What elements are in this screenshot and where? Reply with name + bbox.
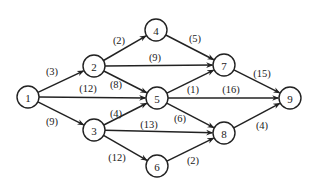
node-8: 8 — [213, 122, 235, 144]
node-3: 3 — [83, 119, 105, 141]
node-label: 6 — [154, 161, 160, 173]
edge-weight-2-7: (9) — [149, 52, 162, 64]
edge-2-7 — [105, 65, 213, 66]
node-label: 5 — [154, 93, 160, 105]
node-label: 8 — [221, 128, 227, 140]
edge-weight-8-9: (4) — [256, 120, 269, 132]
edge-weight-2-5: (8) — [110, 79, 123, 91]
edge-weight-3-6: (12) — [108, 152, 126, 164]
edge-weight-1-5: (12) — [79, 83, 97, 95]
edge-weight-2-4: (2) — [113, 35, 126, 47]
edge-3-8 — [105, 130, 213, 132]
node-5: 5 — [146, 87, 168, 109]
node-label: 9 — [287, 93, 293, 105]
node-label: 7 — [221, 60, 227, 72]
node-9: 9 — [279, 87, 301, 109]
edge-weight-3-8: (13) — [140, 119, 158, 131]
edge-1-5 — [39, 97, 146, 98]
edge-weight-1-2: (3) — [46, 66, 59, 78]
node-7: 7 — [213, 54, 235, 76]
network-graph: (3)(12)(9)(2)(9)(8)(4)(13)(12)(5)(1)(16)… — [0, 0, 313, 192]
node-6: 6 — [146, 155, 168, 177]
edge-weight-7-9: (15) — [253, 68, 271, 80]
node-label: 1 — [25, 92, 31, 104]
edge-1-3 — [38, 102, 84, 125]
edge-1-2 — [38, 71, 84, 92]
edge-weight-5-7: (1) — [187, 84, 200, 96]
edge-weight-3-5: (4) — [110, 108, 123, 120]
edge-weight-1-3: (9) — [46, 116, 59, 128]
edge-weight-6-8: (2) — [187, 155, 200, 167]
node-4: 4 — [145, 19, 167, 41]
node-2: 2 — [83, 55, 105, 77]
node-label: 4 — [153, 25, 159, 37]
node-label: 3 — [91, 125, 97, 137]
edge-weight-5-9: (16) — [222, 84, 240, 96]
edge-weight-5-8: (6) — [174, 113, 187, 125]
node-1: 1 — [17, 86, 39, 108]
node-label: 2 — [91, 61, 97, 73]
edge-weight-4-7: (5) — [189, 33, 202, 45]
